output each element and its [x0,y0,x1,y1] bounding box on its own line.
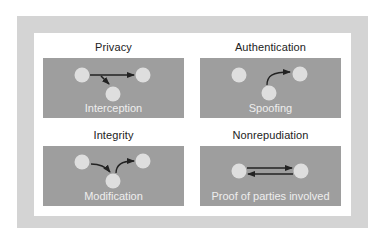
modifier-node-icon [106,174,121,189]
receiver-node-icon [293,67,308,82]
sender-node-icon [75,155,90,170]
panel-privacy: Interception [43,58,184,118]
panel-caption: Spoofing [200,100,341,116]
quadrant-title: Privacy [43,37,184,57]
intercept-arrow-icon [101,76,109,84]
spoofer-node-icon [262,86,277,101]
panel-integrity: Modification [43,146,184,206]
receiver-node-icon [136,68,151,83]
panel-caption: Modification [43,188,184,204]
receiver-node-icon [136,154,151,169]
spoof-arrow-icon [267,72,290,85]
quadrant-title: Authentication [200,37,341,57]
sender-node-icon [232,68,247,83]
quadrant-title: Integrity [43,125,184,145]
panel-caption: Proof of parties involved [200,188,341,204]
from-modifier-arrow-icon [116,161,134,173]
panel-authentication: Spoofing [200,58,341,118]
quadrant-title: Nonrepudiation [200,125,341,145]
panel-nonrepudiation: Proof of parties involved [200,146,341,206]
party-a-node-icon [232,164,247,179]
to-modifier-arrow-icon [91,164,110,172]
panel-caption: Interception [43,100,184,116]
party-b-node-icon [294,164,309,179]
sender-node-icon [75,68,90,83]
